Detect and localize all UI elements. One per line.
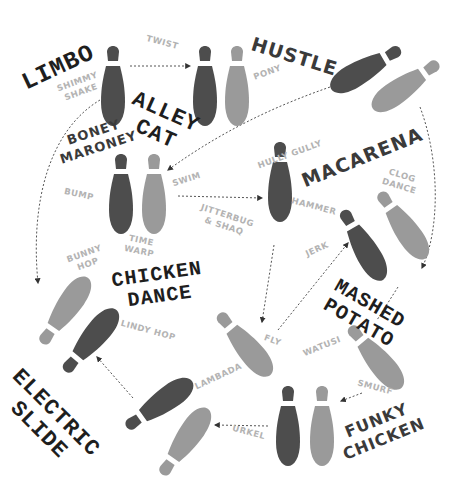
funky-shoe-left [276, 386, 300, 466]
shoe-sole [382, 202, 436, 265]
arrow-lambada-to-electric [97, 357, 133, 398]
shoe-sole [310, 406, 334, 466]
shoe-heel [107, 46, 119, 61]
shoe-heel [231, 46, 243, 61]
shoe-sole [268, 162, 292, 222]
boney-shoe-right [142, 154, 166, 234]
shoe-heel [199, 46, 211, 61]
shoe-heel [423, 58, 442, 76]
funky-shoe-right [310, 386, 334, 466]
hustle-shoe-right [225, 46, 249, 126]
shoe-heel [115, 154, 127, 169]
shoe-sole [142, 174, 166, 234]
shoe-sole [225, 66, 249, 126]
shoe-sole [109, 174, 133, 234]
shoe-heel [214, 310, 233, 329]
shoe-sole [343, 222, 394, 286]
boney-shoe-left [109, 154, 133, 234]
shoe-heel [375, 189, 393, 208]
shoe-heel [384, 44, 403, 62]
arrow-macarena-to-fly [262, 245, 274, 322]
shoe-heel [37, 328, 55, 347]
dance-footprint-diagram: LIMBO HUSTLE ALLEY CAT BONEY MARONEY MAC… [0, 0, 465, 498]
arrow-watusi-to-funky [341, 393, 362, 401]
shoe-heel [148, 154, 160, 169]
shoe-sole [276, 406, 300, 466]
shoe-heel [282, 386, 294, 401]
shoe-heel [316, 386, 328, 401]
shoe-heel [123, 414, 142, 432]
shoe-sole [164, 402, 218, 465]
shoe-heel [157, 459, 175, 478]
shoe-heel [338, 208, 356, 227]
arrow-boney-to-macarena [178, 196, 262, 198]
shoe-heel [60, 356, 79, 375]
